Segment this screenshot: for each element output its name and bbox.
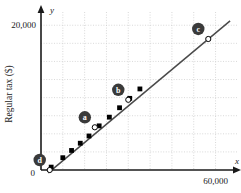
data-point-marker	[69, 148, 74, 153]
regular-tax-line-chart: dabc20,000060,000yxRegular tax ($)	[0, 0, 241, 193]
annotated-point-marker-a[interactable]	[92, 125, 97, 130]
point-badge-label-a: a	[83, 113, 87, 122]
data-point-marker	[60, 155, 65, 160]
data-point-marker	[117, 105, 122, 110]
point-badge-label-b: b	[116, 86, 121, 95]
annotated-point-marker-d[interactable]	[47, 167, 52, 172]
data-point-marker	[138, 87, 143, 92]
y-axis-tick-label-20000: 20,000	[11, 20, 36, 30]
x-axis-tick-label-60000: 60,000	[203, 176, 228, 186]
x-axis-variable-label: x	[234, 156, 239, 166]
point-badge-label-c: c	[196, 25, 200, 34]
y-axis-title: Regular tax ($)	[4, 65, 15, 123]
origin-label: 0	[31, 168, 36, 178]
data-point-marker	[78, 141, 83, 146]
chart-figure: dabc20,000060,000yxRegular tax ($)	[0, 0, 241, 193]
annotated-point-marker-b[interactable]	[126, 97, 131, 102]
point-badge-label-d: d	[38, 156, 43, 165]
annotated-point-marker-c[interactable]	[206, 36, 211, 41]
x-axis-arrowhead	[233, 167, 241, 174]
y-axis-arrowhead	[38, 5, 45, 13]
data-point-marker	[107, 115, 112, 120]
data-point-marker	[87, 134, 92, 139]
y-axis-variable-label: y	[49, 5, 54, 15]
